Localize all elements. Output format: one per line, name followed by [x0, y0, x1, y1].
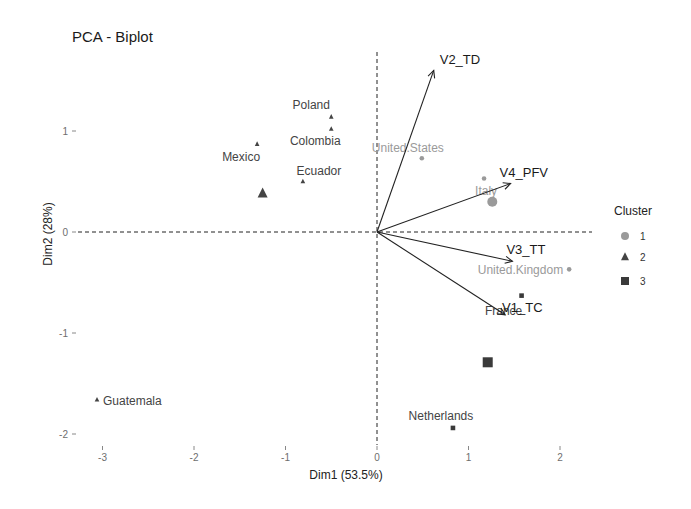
x-tick-label: -2 — [190, 452, 199, 463]
y-axis-label: Dim2 (28%) — [41, 202, 55, 265]
point-label: Mexico — [222, 150, 260, 164]
data-point — [420, 156, 425, 161]
y-tick-label: 1 — [62, 126, 68, 137]
point-label: Colombia — [290, 134, 341, 148]
point-label: Poland — [293, 98, 330, 112]
variable-label: V1_TC — [502, 300, 542, 315]
data-point — [567, 267, 572, 272]
data-point — [255, 141, 260, 146]
x-tick-label: -1 — [281, 452, 290, 463]
data-point — [451, 426, 456, 431]
x-tick-label: 1 — [466, 452, 472, 463]
point-label: Guatemala — [103, 394, 162, 408]
point-label: Ecuador — [297, 164, 342, 178]
variable-label: V4_PFV — [500, 165, 549, 180]
plot-area: -3-2-1012-2-101PolandColombiaMexicoEcuad… — [59, 52, 592, 463]
legend-label: 1 — [640, 231, 646, 242]
cluster-centroid — [258, 188, 268, 198]
data-point — [95, 397, 100, 402]
y-tick-label: 0 — [62, 227, 68, 238]
legend: Cluster 123 — [614, 204, 652, 287]
y-tick-label: -2 — [59, 429, 68, 440]
variable-label: V2_TD — [440, 52, 480, 67]
pca-biplot: PCA - Biplot -3-2-1012-2-101PolandColomb… — [0, 0, 691, 509]
legend-circle-icon — [621, 232, 629, 240]
x-tick-label: 2 — [557, 452, 563, 463]
data-point — [519, 293, 524, 298]
legend-label: 3 — [640, 276, 646, 287]
data-point — [301, 179, 306, 184]
data-point — [329, 114, 334, 119]
point-label: Italy — [475, 184, 497, 198]
point-label: Netherlands — [409, 409, 474, 423]
variable-arrow — [377, 232, 512, 261]
y-tick-label: -1 — [59, 328, 68, 339]
variable-arrow — [377, 184, 511, 232]
cluster-centroid — [483, 357, 493, 367]
chart-title: PCA - Biplot — [72, 28, 154, 45]
legend-triangle-icon — [621, 252, 629, 260]
x-tick-label: -3 — [98, 452, 107, 463]
x-tick-label: 0 — [374, 452, 380, 463]
legend-title: Cluster — [614, 204, 652, 218]
legend-square-icon — [621, 277, 629, 285]
data-point — [482, 176, 487, 181]
legend-label: 2 — [640, 252, 646, 263]
point-label: United.Kingdom — [478, 263, 563, 277]
data-point — [329, 126, 334, 131]
cluster-centroid — [487, 197, 497, 207]
x-axis-label: Dim1 (53.5%) — [309, 468, 382, 482]
variable-label: V3_TT — [506, 242, 545, 257]
